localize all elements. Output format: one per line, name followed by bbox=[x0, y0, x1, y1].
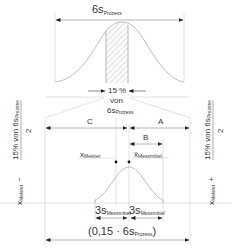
left-formula-x: xMeister− bbox=[15, 177, 24, 205]
right-formula-numerator: 15% von 6sProzess bbox=[203, 100, 212, 160]
left-formula-numerator: 15% von 6sProzess bbox=[11, 100, 20, 160]
measurement-spread-diagram: 6sProzess 15 % von 6sProzess C A B xMeis bbox=[0, 0, 232, 252]
measurement-spread: 3sMessmittel 3sMessmittel bbox=[95, 204, 165, 218]
messmittel-label: x̄Messmittel bbox=[134, 150, 162, 159]
process-distribution: 6sProzess 15 % von 6sProzess bbox=[45, 3, 190, 118]
segment-a-label: A bbox=[158, 117, 164, 126]
right-formula-x: xMeister+ bbox=[207, 177, 216, 205]
fifteen-percent-band bbox=[106, 22, 128, 83]
left-formula-denominator: 2 bbox=[24, 128, 33, 133]
total-tolerance-label: (0,15 · 6sProzess) bbox=[88, 225, 156, 237]
left-limit-formula: xMeister− 15% von 6sProzess 2 bbox=[11, 100, 33, 205]
fifteen-percent-label: 15 % bbox=[108, 86, 126, 95]
reference-label: 6sProzess bbox=[107, 106, 134, 115]
reference-points: xMeister x̄Messmittel bbox=[78, 150, 168, 163]
right-limit-formula: xMeister+ 15% von 6sProzess 2 bbox=[203, 100, 225, 205]
segment-c-label: C bbox=[87, 117, 93, 126]
right-projection-line bbox=[130, 98, 190, 118]
total-tolerance: (0,15 · 6sProzess) bbox=[46, 225, 189, 240]
messmittel-point bbox=[128, 161, 131, 164]
von-label: von bbox=[110, 96, 123, 105]
left-projection-line bbox=[45, 98, 104, 118]
meister-label: xMeister bbox=[80, 150, 101, 159]
three-s-left-label: 3sMessmittel bbox=[95, 204, 131, 216]
deviation-segments: C A B bbox=[46, 117, 189, 144]
three-s-right-label: 3sMessmittel bbox=[129, 204, 165, 216]
segment-b-label: B bbox=[143, 133, 148, 142]
right-formula-denominator: 2 bbox=[216, 128, 225, 133]
process-width-label: 6sProzess bbox=[92, 3, 122, 16]
meister-point bbox=[115, 161, 118, 164]
